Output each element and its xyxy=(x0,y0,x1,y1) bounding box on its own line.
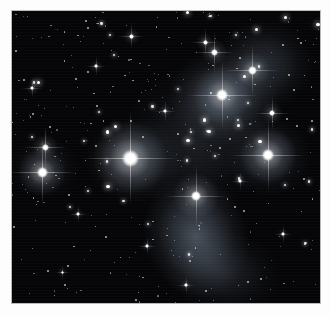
field-star xyxy=(175,302,176,303)
field-star xyxy=(229,138,231,140)
star-core-maia xyxy=(216,89,228,101)
field-star xyxy=(87,71,89,73)
diffraction-spike-horizontal-field-star-e xyxy=(274,234,292,235)
field-star xyxy=(243,75,246,78)
diffraction-spike-vertical-maia xyxy=(222,60,223,130)
nebula-central-web xyxy=(121,65,271,215)
field-star xyxy=(167,74,168,75)
field-star xyxy=(73,107,74,108)
astrophotograph-plate xyxy=(12,11,320,303)
field-star xyxy=(95,226,97,228)
field-star xyxy=(12,194,13,195)
field-star xyxy=(36,204,38,206)
field-star xyxy=(251,146,252,147)
field-star xyxy=(148,81,149,82)
field-star xyxy=(312,240,313,241)
diffraction-spike-horizontal-field-star-c xyxy=(86,66,106,67)
field-star xyxy=(177,160,178,161)
field-star xyxy=(138,292,140,294)
nebula-upper-right-haze xyxy=(204,13,320,119)
field-star xyxy=(167,228,168,229)
field-star xyxy=(231,45,232,46)
field-star xyxy=(258,140,261,143)
diffraction-spike-horizontal-asterope xyxy=(24,147,66,148)
field-star xyxy=(93,93,95,95)
field-star xyxy=(15,14,16,15)
field-star xyxy=(80,290,81,291)
diffraction-spike-vertical-field-star-g xyxy=(78,205,79,223)
field-star xyxy=(207,130,210,133)
diffraction-spike-horizontal-field-star-g xyxy=(69,214,87,215)
field-star xyxy=(85,160,87,162)
star-halo-field-star-i xyxy=(180,279,192,291)
star-core-field-star-g xyxy=(76,212,80,216)
star-halo-field-star-a xyxy=(123,28,140,45)
diffraction-spike-horizontal-taygeta xyxy=(226,70,278,71)
diffraction-spike-vertical-electra xyxy=(42,138,43,206)
field-star xyxy=(238,180,239,181)
field-star xyxy=(105,236,107,238)
field-star xyxy=(73,246,75,248)
field-star xyxy=(27,192,28,193)
field-star xyxy=(68,194,70,196)
diffraction-spike-horizontal-celaeno xyxy=(194,52,234,53)
field-star xyxy=(54,156,55,157)
field-star xyxy=(211,288,212,289)
star-core-alcyone xyxy=(122,150,139,167)
field-star xyxy=(258,65,260,67)
field-star xyxy=(176,12,177,13)
field-star xyxy=(90,123,92,125)
field-star xyxy=(190,128,191,129)
field-star xyxy=(282,44,284,46)
field-star xyxy=(72,67,73,68)
field-star xyxy=(192,256,193,257)
field-star xyxy=(132,80,134,82)
field-star xyxy=(188,253,190,255)
diffraction-spike-horizontal-alcyone xyxy=(82,158,178,159)
field-star xyxy=(243,210,245,212)
field-star xyxy=(85,186,86,187)
field-star xyxy=(248,244,249,245)
star-halo-field-star-b xyxy=(158,104,172,118)
field-star xyxy=(255,28,258,31)
field-star xyxy=(171,250,172,251)
star-halo-field-star-e xyxy=(277,228,289,240)
star-halo-atlas xyxy=(240,127,296,183)
field-star xyxy=(138,100,139,101)
field-star xyxy=(190,131,192,133)
field-star xyxy=(229,32,230,33)
field-star xyxy=(34,164,36,166)
diffraction-spike-vertical-alcyone xyxy=(130,110,131,206)
field-star xyxy=(293,89,295,91)
field-star xyxy=(139,224,140,225)
field-star xyxy=(37,149,38,150)
field-star xyxy=(270,86,271,87)
field-star xyxy=(151,89,152,90)
star-halo-field-star-h xyxy=(234,175,246,187)
field-star xyxy=(130,59,132,61)
field-star xyxy=(166,49,167,50)
field-star xyxy=(305,40,306,41)
field-star xyxy=(246,146,247,147)
field-star xyxy=(182,188,184,190)
field-star xyxy=(106,214,107,215)
field-star xyxy=(251,123,252,124)
field-star xyxy=(129,257,130,258)
field-star xyxy=(152,239,154,241)
field-star xyxy=(157,295,158,296)
field-star xyxy=(87,190,89,192)
field-star xyxy=(183,79,184,80)
field-star xyxy=(312,198,314,200)
field-star xyxy=(181,166,182,167)
star-core-electra xyxy=(37,167,48,178)
star-core-field-star-h xyxy=(238,179,242,183)
field-star xyxy=(311,86,312,87)
star-halo-pleione xyxy=(261,102,283,124)
star-core-field-star-i xyxy=(184,283,188,287)
field-star xyxy=(247,281,249,283)
field-star xyxy=(187,187,188,188)
diffraction-spike-vertical-field-star-h xyxy=(240,172,241,190)
field-star xyxy=(106,160,108,162)
field-star xyxy=(300,42,302,44)
field-star xyxy=(148,65,149,66)
